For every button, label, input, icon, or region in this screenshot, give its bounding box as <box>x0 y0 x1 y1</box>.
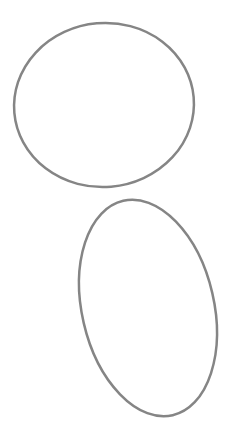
drawing-canvas <box>0 0 235 437</box>
ellipse-top <box>7 15 201 194</box>
ellipse-bottom <box>59 186 235 430</box>
